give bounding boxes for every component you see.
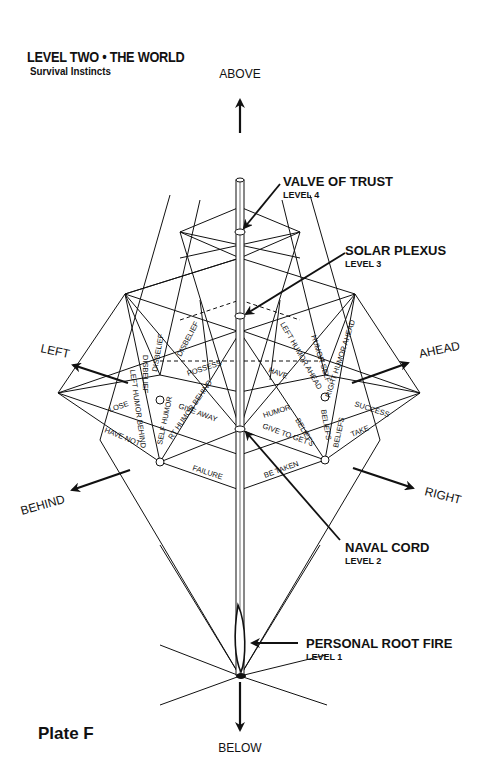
right-arrow-icon xyxy=(353,468,413,488)
label-be-taken: BE TAKEN xyxy=(263,459,300,480)
label-disbelief-3: DISBELIEF xyxy=(175,319,201,357)
callout-solar-plexus-level: LEVEL 3 xyxy=(345,259,381,269)
callout-solar-plexus: SOLAR PLEXUS xyxy=(345,243,446,258)
label-rt-humor-behind: RT HUMOR BEHIND xyxy=(166,378,214,441)
direction-above: ABOVE xyxy=(219,67,260,81)
callout-naval-cord: NAVAL CORD xyxy=(345,540,430,555)
label-have-not: HAVE NOT xyxy=(103,426,142,449)
label-disbelief-1: DISBELIEF xyxy=(141,355,150,394)
label-disbelief-2: DISBELIEF xyxy=(150,333,166,373)
direction-right: RIGHT xyxy=(423,484,463,507)
direction-left: LEFT xyxy=(39,341,71,361)
label-beliefs-3: BELIEFS xyxy=(331,416,346,448)
callout-valve-of-trust-level: LEVEL 4 xyxy=(283,190,319,200)
callout-personal-root-fire: PERSONAL ROOT FIRE xyxy=(306,636,453,651)
direction-behind: BEHIND xyxy=(19,492,67,518)
callout-naval-cord-level: LEVEL 2 xyxy=(345,556,381,566)
label-beliefs-2: BELIEFS xyxy=(319,409,333,441)
label-success: SUCCESS xyxy=(353,399,390,419)
behind-arrow-icon xyxy=(72,470,130,490)
callout-valve-of-trust: VALVE OF TRUST xyxy=(283,174,393,189)
energy-structure-diagram: ABOVE BELOW LEFT AHEAD BEHIND RIGHT VALV… xyxy=(0,0,479,784)
left-arrow-icon xyxy=(73,365,128,383)
label-take: TAKE xyxy=(349,423,370,438)
direction-below: BELOW xyxy=(218,741,262,755)
label-humor: HUMOR xyxy=(262,402,292,419)
callout-personal-root-fire-level: LEVEL 1 xyxy=(306,652,342,662)
direction-ahead: AHEAD xyxy=(418,339,462,361)
label-right-humor-ahead: RIGHT HUMOR AHEAD xyxy=(323,318,357,398)
